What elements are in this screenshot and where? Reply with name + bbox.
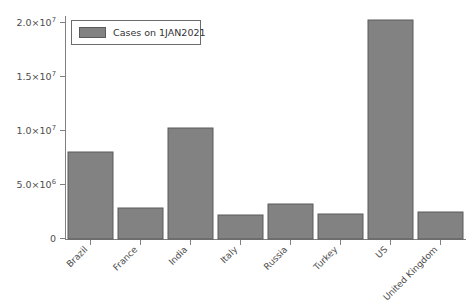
- bar-us[interactable]: [368, 20, 413, 239]
- bar-united-kingdom[interactable]: [418, 212, 463, 239]
- y-tick-label-1e7: 1.0×107: [17, 124, 57, 136]
- bar-italy[interactable]: [218, 215, 263, 239]
- y-tick-label-15e6: 1.5×107: [17, 70, 57, 82]
- y-tick-label-2e7: 2.0×107: [17, 16, 57, 28]
- bar-india[interactable]: [168, 128, 213, 239]
- bar-chart-figure: 0 5.0×106 1.0×107 1.5×107 2.0×107: [0, 0, 475, 304]
- y-tick-label-0: 0: [50, 233, 56, 244]
- chart-canvas: 0 5.0×106 1.0×107 1.5×107 2.0×107: [0, 0, 475, 304]
- bar-turkey[interactable]: [318, 214, 363, 239]
- bar-russia[interactable]: [268, 204, 313, 239]
- bar-brazil[interactable]: [68, 152, 113, 239]
- chart-legend[interactable]: Cases on 1JAN2021: [72, 21, 206, 45]
- bar-france[interactable]: [118, 208, 163, 239]
- legend-swatch-cases: [80, 28, 106, 38]
- legend-label-cases: Cases on 1JAN2021: [113, 27, 206, 38]
- y-tick-label-5e6: 5.0×106: [17, 178, 57, 190]
